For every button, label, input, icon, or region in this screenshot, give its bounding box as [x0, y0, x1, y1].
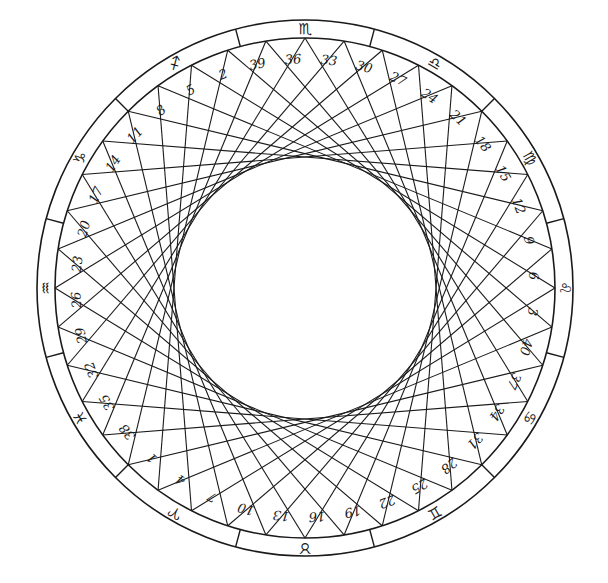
point-label: 4 [173, 472, 189, 490]
point-label: 29 [72, 326, 90, 346]
point-label: 35 [96, 392, 117, 414]
zodiac-sagittarius-icon: ♐ [165, 52, 186, 74]
zodiac-cancer-icon: ♋ [519, 407, 541, 428]
chord-line [128, 365, 543, 465]
sector-divider [46, 219, 63, 224]
point-label: 16 [308, 509, 325, 525]
sector-divider [115, 98, 128, 111]
point-label: 40 [517, 336, 536, 357]
chord-line [418, 65, 451, 490]
chord-line [67, 211, 344, 535]
point-label: 22 [377, 491, 399, 511]
chord-line [58, 327, 452, 490]
point-label: 5 [183, 81, 198, 98]
chord-line [228, 50, 552, 327]
point-label: 7 [204, 488, 218, 505]
sector-divider [370, 29, 375, 46]
zodiac-gemini-icon: ♊ [424, 502, 445, 524]
chord-line [58, 50, 382, 327]
chord-line [103, 401, 528, 434]
zodiac-libra-icon: ♎ [424, 52, 445, 74]
inner-ring [55, 38, 555, 538]
chord-line [128, 111, 228, 526]
point-label: 19 [343, 503, 362, 521]
zodiac-aquarius-icon: ♒ [37, 281, 55, 294]
point-label: 39 [248, 55, 267, 73]
chord-line [55, 65, 418, 288]
chord-line [67, 365, 482, 465]
point-label: 1 [144, 450, 160, 467]
sector-divider [482, 98, 495, 111]
chord-line [158, 65, 191, 490]
point-label: 9 [521, 235, 537, 246]
chord-line [103, 141, 528, 174]
chord-line [266, 211, 543, 535]
zodiac-pisces-icon: ♓ [69, 407, 91, 428]
point-label: 8 [153, 102, 169, 119]
point-label: 27 [387, 68, 410, 89]
zodiac-virgo-icon: ♍ [519, 148, 541, 169]
sector-divider [115, 465, 128, 478]
point-label: 18 [472, 133, 494, 155]
chord-line [344, 141, 507, 535]
zodiac-aries-icon: ♈ [165, 502, 186, 524]
point-label: 6 [526, 271, 541, 280]
point-label: 2 [215, 66, 229, 83]
point-label: 13 [272, 507, 290, 524]
chord-line [128, 50, 228, 465]
chord-line [82, 141, 507, 174]
point-label-group: 3633302724211815129634037343128252219161… [68, 51, 541, 524]
chord-line [382, 111, 482, 526]
point-label: 36 [284, 51, 301, 67]
chord-line [82, 175, 305, 538]
chord-line [67, 41, 344, 365]
sector-divider [46, 353, 63, 358]
zodiac-capricorn-icon: ♑ [69, 148, 91, 169]
chord-line [67, 111, 482, 211]
point-label: 12 [509, 196, 529, 217]
point-label: 25 [409, 475, 432, 497]
zodiac-wheel-diagram: 3633302724211815129634037343128252219161… [0, 0, 608, 583]
sector-divider [370, 529, 375, 546]
chord-line [128, 111, 543, 211]
sector-divider [482, 465, 495, 478]
wheel-svg: 3633302724211815129634037343128252219161… [0, 0, 608, 583]
sector-divider-group [46, 29, 564, 547]
sector-divider [236, 29, 241, 46]
sector-divider [546, 353, 563, 358]
point-label: 15 [493, 163, 514, 185]
point-label: 38 [116, 421, 138, 443]
point-label: 33 [320, 52, 338, 69]
chord-line [158, 86, 552, 249]
sector-divider [236, 529, 241, 546]
chord-line [103, 41, 266, 435]
chord-line [305, 38, 528, 401]
sector-divider [546, 219, 563, 224]
zodiac-taurus-icon: ♉ [298, 539, 311, 557]
chord-line [382, 50, 482, 465]
chord-line [58, 249, 382, 526]
zodiac-scorpio-icon: ♏ [298, 20, 312, 38]
chord-line [192, 288, 555, 511]
point-label: 28 [438, 454, 461, 477]
chord-line [266, 41, 543, 365]
zodiac-leo-icon: ♌ [556, 281, 574, 294]
point-label: 20 [74, 219, 93, 240]
point-label: 23 [69, 255, 86, 274]
chord-line [418, 86, 451, 511]
point-label: 26 [68, 291, 84, 309]
point-label: 32 [81, 360, 101, 381]
chord-line [158, 86, 191, 511]
chord-line [82, 401, 507, 434]
chord-group [55, 38, 555, 538]
chord-line [228, 249, 552, 526]
point-label: 3 [525, 307, 541, 317]
